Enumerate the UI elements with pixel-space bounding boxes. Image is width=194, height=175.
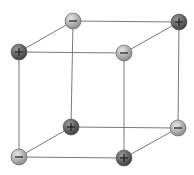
cube-edge <box>19 127 71 157</box>
positive-ion-back-top-right: + <box>171 14 187 30</box>
negative-ion-front-top-right: − <box>116 45 132 61</box>
cube-edge <box>73 21 179 22</box>
cube-edge <box>124 128 178 158</box>
cube-edge <box>71 21 73 127</box>
cube-edge <box>19 52 124 53</box>
cube-lattice: −++−+−−+ <box>0 0 194 175</box>
positive-ion-front-bottom-right: + <box>116 150 132 166</box>
cube-edges <box>19 21 179 158</box>
positive-ion-back-bottom-left: + <box>63 119 79 135</box>
cube-edge <box>19 21 73 52</box>
cube-diagram: −++−+−−+ <box>0 0 194 175</box>
negative-ion-back-top-left: − <box>65 13 81 29</box>
negative-ion-back-bottom-right: − <box>170 120 186 136</box>
positive-ion-front-top-left: + <box>11 44 27 60</box>
cube-edge <box>124 22 179 53</box>
negative-ion-front-bottom-left: − <box>11 149 27 165</box>
cube-edge <box>178 22 179 128</box>
cube-edge <box>19 157 124 158</box>
ions: −++−+−−+ <box>11 13 187 166</box>
